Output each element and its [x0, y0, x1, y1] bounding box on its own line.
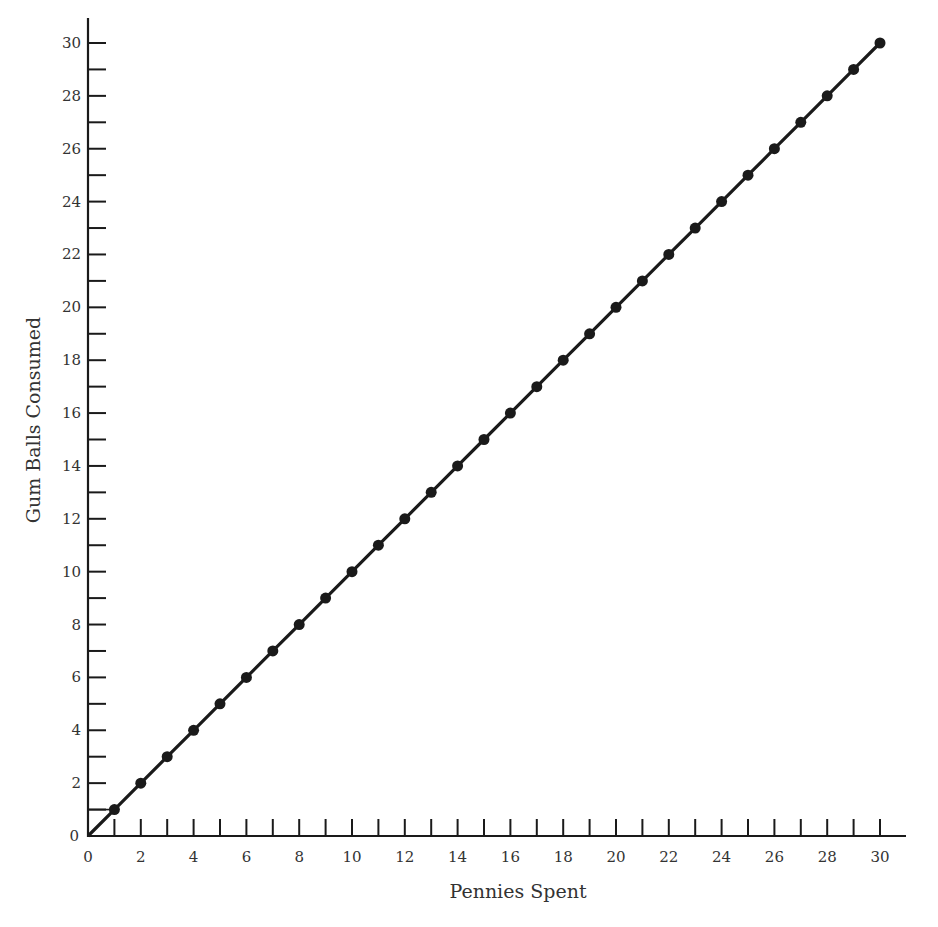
x-tick-label: 30 — [870, 848, 889, 866]
x-axis-title: Pennies Spent — [449, 880, 586, 902]
data-point — [215, 698, 226, 709]
x-tick-label: 8 — [294, 848, 304, 866]
y-tick-label: 0 — [69, 827, 79, 845]
data-point — [162, 751, 173, 762]
data-point — [479, 434, 490, 445]
x-tick-label: 12 — [395, 848, 414, 866]
data-point — [611, 302, 622, 313]
x-tick-label: 22 — [659, 848, 678, 866]
data-point — [426, 487, 437, 498]
data-point — [743, 170, 754, 181]
data-point — [716, 196, 727, 207]
data-point — [452, 460, 463, 471]
data-point — [663, 249, 674, 260]
data-point — [637, 275, 648, 286]
data-point — [320, 593, 331, 604]
data-point — [584, 328, 595, 339]
x-tick-label: 0 — [83, 848, 93, 866]
data-point — [188, 725, 199, 736]
x-tick-label: 6 — [242, 848, 252, 866]
y-tick-label: 14 — [62, 457, 81, 475]
data-point — [848, 64, 859, 75]
chart: 0246810121416182022242628300246810121416… — [0, 0, 938, 927]
data-point — [135, 778, 146, 789]
y-tick-label: 20 — [62, 298, 81, 316]
x-tick-label: 16 — [501, 848, 520, 866]
y-tick-label: 8 — [71, 616, 81, 634]
y-axis-title: Gum Balls Consumed — [22, 317, 44, 523]
x-tick-label: 28 — [818, 848, 837, 866]
x-tick-label: 20 — [606, 848, 625, 866]
y-tick-label: 10 — [62, 563, 81, 581]
data-point — [399, 513, 410, 524]
y-tick-label: 22 — [62, 245, 81, 263]
data-point — [531, 381, 542, 392]
data-point — [267, 645, 278, 656]
data-series — [88, 38, 886, 837]
data-point — [347, 566, 358, 577]
x-tick-label: 14 — [448, 848, 467, 866]
y-tick-label: 2 — [71, 774, 81, 792]
data-point — [373, 540, 384, 551]
y-tick-label: 16 — [62, 404, 81, 422]
x-tick-label: 4 — [189, 848, 199, 866]
data-point — [769, 143, 780, 154]
data-point — [690, 223, 701, 234]
x-tick-label: 10 — [342, 848, 361, 866]
x-tick-label: 26 — [765, 848, 784, 866]
y-tick-label: 28 — [62, 87, 81, 105]
y-tick-label: 24 — [62, 193, 81, 211]
data-point — [241, 672, 252, 683]
data-point — [875, 38, 886, 49]
y-tick-label: 30 — [62, 34, 81, 52]
y-tick-label: 6 — [71, 668, 81, 686]
x-tick-label: 2 — [136, 848, 146, 866]
data-point — [294, 619, 305, 630]
data-point — [505, 408, 516, 419]
x-tick-label: 18 — [554, 848, 573, 866]
y-tick-label: 4 — [71, 721, 81, 739]
data-point — [558, 355, 569, 366]
y-tick-label: 18 — [62, 351, 81, 369]
data-point — [109, 804, 120, 815]
y-tick-label: 12 — [62, 510, 81, 528]
y-tick-label: 26 — [62, 140, 81, 158]
data-point — [795, 117, 806, 128]
data-point — [822, 90, 833, 101]
x-tick-label: 24 — [712, 848, 731, 866]
